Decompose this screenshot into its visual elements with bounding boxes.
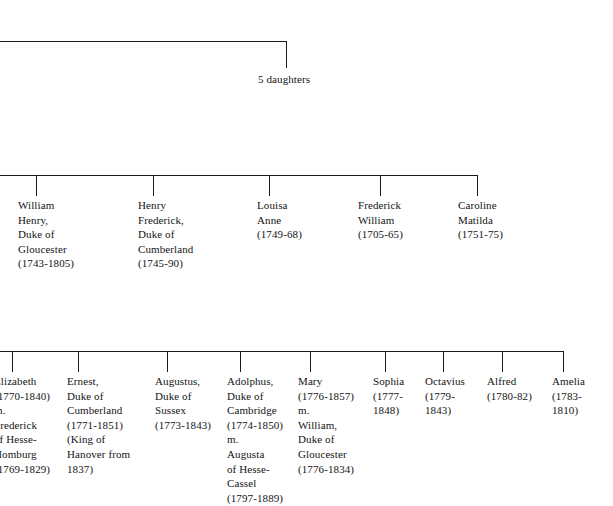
- generation-three-stem-7: [443, 351, 444, 372]
- generation-three-horizontal-line: [0, 351, 564, 352]
- generation-two-stem-3: [269, 175, 270, 196]
- node-william-henry-duke-of-gloucester: William Henry, Duke of Gloucester (1743-…: [18, 198, 128, 271]
- generation-three-stem-8: [502, 351, 503, 372]
- node-ernest-duke-of-cumberland: Ernest, Duke of Cumberland (1771-1851) (…: [67, 374, 155, 476]
- generation-two-stem-5: [477, 175, 478, 196]
- generation-two-stem-2: [153, 175, 154, 196]
- five-daughters-label: 5 daughters: [258, 72, 310, 87]
- generation-three-stem-5: [310, 351, 311, 372]
- generation-two-horizontal-line: [0, 175, 478, 176]
- node-caroline-matilda: Caroline Matilda (1751-75): [458, 198, 558, 242]
- node-frederick-william: Frederick William (1705-65): [358, 198, 458, 242]
- node-mary: Mary (1776-1857) m. William, Duke of Glo…: [298, 374, 366, 476]
- node-louisa-anne: Louisa Anne (1749-68): [257, 198, 362, 242]
- top-branch-horizontal-line: [0, 41, 287, 42]
- node-henry-frederick-duke-of-cumberland: Henry Frederick, Duke of Cumberland (174…: [138, 198, 253, 271]
- family-tree-diagram: 5 daughters William Henry, Duke of Glouc…: [0, 0, 613, 506]
- generation-three-stem-2: [78, 351, 79, 372]
- node-augustus-duke-of-sussex: Augustus, Duke of Sussex (1773-1843): [155, 374, 223, 432]
- generation-three-stem-4: [240, 351, 241, 372]
- generation-three-stem-3: [167, 351, 168, 372]
- node-alfred: Alfred (1780-82): [487, 374, 557, 403]
- generation-two-stem-4: [380, 175, 381, 196]
- top-branch-stem: [286, 41, 287, 68]
- generation-three-stem-9: [563, 351, 564, 372]
- node-octavius: Octavius (1779-1843): [425, 374, 477, 418]
- generation-three-stem-1: [12, 351, 13, 372]
- node-sophia: Sophia (1777-1848): [373, 374, 423, 418]
- node-adolphus-duke-of-cambridge: Adolphus, Duke of Cambridge (1774-1850) …: [227, 374, 299, 505]
- node-elizabeth: Elizabeth (1770-1840) m. Frederick of He…: [0, 374, 64, 476]
- generation-three-stem-6: [385, 351, 386, 372]
- node-amelia: Amelia (1783-1810): [552, 374, 607, 418]
- generation-two-stem-1: [36, 175, 37, 196]
